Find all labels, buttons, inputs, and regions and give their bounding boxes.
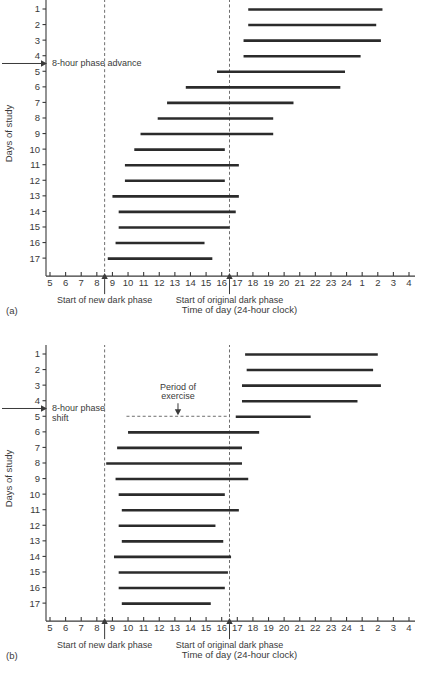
x-tick-label-10: 10	[123, 622, 134, 633]
y-tick-label-day-4: 4	[35, 395, 40, 406]
panel-letter: (b)	[6, 650, 18, 661]
x-tick-label-21: 21	[294, 277, 305, 288]
x-tick-label-24: 24	[341, 277, 352, 288]
x-tick-label-20: 20	[279, 622, 290, 633]
vline-caption-1: Start of new dark phase	[57, 640, 152, 650]
y-tick-label-day-8: 8	[35, 457, 40, 468]
y-tick-label-day-5: 5	[35, 66, 40, 77]
y-tick-label-day-14: 14	[29, 551, 40, 562]
y-tick-label-day-11: 11	[30, 159, 40, 170]
x-tick-label-3: 3	[391, 622, 396, 633]
x-tick-label-24: 24	[341, 622, 352, 633]
y-tick-label-day-2: 2	[35, 19, 40, 30]
y-tick-label-day-17: 17	[29, 253, 40, 264]
y-tick-label-day-9: 9	[35, 128, 40, 139]
y-tick-label-day-7: 7	[35, 442, 40, 453]
y-tick-label-day-12: 12	[29, 520, 40, 531]
x-tick-label-20: 20	[279, 277, 290, 288]
y-tick-label-day-3: 3	[35, 35, 40, 46]
x-tick-label-5: 5	[47, 622, 52, 633]
x-tick-label-7: 7	[79, 622, 84, 633]
x-tick-label-12: 12	[154, 622, 165, 633]
y-tick-label-day-17: 17	[29, 598, 40, 609]
x-axis-title: Time of day (24-hour clock)	[182, 649, 297, 660]
x-tick-label-8: 8	[94, 622, 99, 633]
x-tick-label-22: 22	[310, 277, 321, 288]
y-tick-label-day-1: 1	[35, 348, 40, 359]
x-tick-label-16: 16	[216, 622, 227, 633]
y-tick-label-day-8: 8	[35, 112, 40, 123]
y-tick-label-day-3: 3	[35, 380, 40, 391]
y-tick-label-day-10: 10	[29, 489, 40, 500]
y-axis-title: Days of study	[3, 450, 14, 508]
x-tick-label-19: 19	[263, 277, 274, 288]
panel-letter: (a)	[6, 305, 18, 316]
y-tick-label-day-13: 13	[29, 535, 40, 546]
x-tick-label-5: 5	[47, 277, 52, 288]
x-tick-label-11: 11	[139, 622, 149, 633]
x-tick-label-13: 13	[170, 622, 181, 633]
y-tick-label-day-6: 6	[35, 426, 40, 437]
vline-caption-1: Start of new dark phase	[57, 295, 152, 305]
y-tick-label-day-15: 15	[29, 566, 40, 577]
x-tick-label-18: 18	[248, 622, 259, 633]
y-tick-label-day-12: 12	[29, 175, 40, 186]
x-tick-label-4: 4	[406, 277, 411, 288]
y-tick-label-day-11: 11	[30, 504, 40, 515]
x-tick-label-15: 15	[201, 622, 212, 633]
y-tick-label-day-7: 7	[35, 97, 40, 108]
y-tick-label-day-1: 1	[35, 3, 40, 14]
y-tick-label-day-2: 2	[35, 364, 40, 375]
chart-b-svg: 1234567891011121314151617Days of study56…	[0, 345, 422, 687]
x-tick-label-12: 12	[154, 277, 165, 288]
x-tick-label-14: 14	[185, 622, 196, 633]
exercise-label-line-2: exercise	[161, 391, 195, 401]
x-tick-label-6: 6	[63, 277, 68, 288]
x-tick-label-2: 2	[375, 622, 380, 633]
x-tick-label-4: 4	[406, 622, 411, 633]
y-tick-label-day-6: 6	[35, 81, 40, 92]
x-tick-label-11: 11	[139, 277, 149, 288]
x-tick-label-9: 9	[110, 622, 115, 633]
panel-b-phase-shift-exercise: 1234567891011121314151617Days of study56…	[0, 345, 422, 687]
x-tick-label-8: 8	[94, 277, 99, 288]
y-axis-title: Days of study	[3, 105, 14, 163]
x-tick-label-17: 17	[232, 622, 243, 633]
y-tick-label-day-5: 5	[35, 411, 40, 422]
chart-a-svg: 1234567891011121314151617Days of study56…	[0, 0, 422, 345]
phase-annotation-line-1: 8-hour phase	[52, 403, 105, 413]
exercise-arrow-head	[175, 409, 181, 415]
x-tick-label-7: 7	[79, 277, 84, 288]
x-tick-label-18: 18	[248, 277, 259, 288]
y-tick-label-day-4: 4	[35, 50, 40, 61]
x-tick-label-22: 22	[310, 622, 321, 633]
x-tick-label-17: 17	[232, 277, 243, 288]
vline-caption-2: Start of original dark phase	[176, 295, 284, 305]
y-tick-label-day-15: 15	[29, 221, 40, 232]
y-tick-label-day-16: 16	[29, 582, 40, 593]
x-tick-label-9: 9	[110, 277, 115, 288]
x-tick-label-13: 13	[170, 277, 181, 288]
x-tick-label-1: 1	[360, 277, 365, 288]
y-tick-label-day-9: 9	[35, 473, 40, 484]
y-tick-label-day-13: 13	[29, 190, 40, 201]
y-tick-label-day-10: 10	[29, 144, 40, 155]
x-tick-label-3: 3	[391, 277, 396, 288]
panel-a-phase-advance: 1234567891011121314151617Days of study56…	[0, 0, 422, 345]
y-tick-label-day-16: 16	[29, 237, 40, 248]
x-tick-label-15: 15	[201, 277, 212, 288]
x-axis-title: Time of day (24-hour clock)	[182, 304, 297, 315]
x-tick-label-23: 23	[326, 277, 337, 288]
phase-annotation-line-2: shift	[52, 413, 69, 423]
x-tick-label-14: 14	[185, 277, 196, 288]
x-tick-label-2: 2	[375, 277, 380, 288]
x-tick-label-19: 19	[263, 622, 274, 633]
x-tick-label-6: 6	[63, 622, 68, 633]
vline-caption-2: Start of original dark phase	[176, 640, 284, 650]
y-tick-label-day-14: 14	[29, 206, 40, 217]
x-tick-label-10: 10	[123, 277, 134, 288]
x-tick-label-23: 23	[326, 622, 337, 633]
x-tick-label-16: 16	[216, 277, 227, 288]
x-tick-label-21: 21	[294, 622, 305, 633]
phase-annotation-line-1: 8-hour phase advance	[52, 58, 142, 68]
